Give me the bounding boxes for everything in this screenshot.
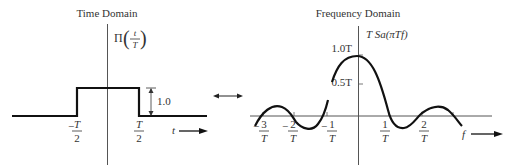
- svg-text:1: 1: [382, 118, 388, 130]
- time-domain-title: Time Domain: [76, 7, 138, 19]
- fraction-den: T: [132, 40, 138, 50]
- svg-text:2: 2: [421, 118, 427, 130]
- left-paren: (: [123, 27, 130, 50]
- svg-text:T: T: [136, 118, 143, 130]
- svg-text:−: −: [282, 120, 288, 132]
- time-tick-T-over-2: T 2: [134, 118, 144, 144]
- fraction-num: t: [134, 28, 137, 38]
- freq-tick-neg-1-over-T: − 1 T: [321, 118, 337, 144]
- amplitude-label: 1.0: [157, 95, 171, 107]
- arrow-up-icon: [149, 88, 154, 93]
- fourier-pair-diagram: Time Domain Π ( t T ) 1.0 − T 2: [0, 0, 510, 168]
- time-function-label: Π ( t T ): [114, 27, 147, 50]
- svg-text:2: 2: [74, 132, 80, 144]
- svg-text:T: T: [329, 132, 336, 144]
- frequency-domain-plot: Frequency Domain T Sa(πTf) 1.0T 0.5T − 3…: [250, 7, 503, 165]
- svg-text:T: T: [382, 132, 389, 144]
- freq-tick-neg-2-over-T: − 2 T: [282, 118, 298, 144]
- time-axis-label: t: [172, 124, 176, 136]
- time-tick-neg-T-over-2: − T 2: [68, 118, 82, 144]
- right-paren: ): [140, 27, 147, 50]
- svg-text:−: −: [321, 120, 327, 132]
- svg-text:2: 2: [136, 132, 142, 144]
- y-tick-1-0T: 1.0T: [332, 42, 353, 54]
- amplitude-dimension: 1.0: [146, 88, 171, 116]
- freq-direction-arrow-icon: [471, 131, 503, 137]
- svg-text:1: 1: [329, 118, 335, 130]
- svg-text:T: T: [261, 132, 268, 144]
- svg-text:−: −: [253, 120, 259, 132]
- y-tick-0-5T: 0.5T: [332, 76, 353, 88]
- freq-axis-label: f: [462, 128, 467, 140]
- freq-tick-1-over-T: 1 T: [380, 118, 390, 144]
- fourier-transform-arrow-icon: [213, 94, 243, 99]
- freq-tick-neg-3-over-T: − 3 T: [253, 118, 269, 144]
- svg-text:T: T: [290, 132, 297, 144]
- svg-text:3: 3: [261, 118, 267, 130]
- pi-symbol: Π: [114, 31, 123, 45]
- time-direction-arrow-icon: [179, 128, 208, 134]
- frequency-domain-title: Frequency Domain: [316, 7, 401, 19]
- freq-function-label: T Sa(πTf): [366, 28, 408, 41]
- svg-text:2: 2: [290, 118, 296, 130]
- svg-text:T: T: [421, 132, 428, 144]
- svg-text:T: T: [74, 118, 81, 130]
- freq-tick-2-over-T: 2 T: [419, 118, 429, 144]
- time-domain-plot: Time Domain Π ( t T ) 1.0 − T 2: [12, 7, 208, 165]
- rect-pulse-curve: [12, 88, 207, 116]
